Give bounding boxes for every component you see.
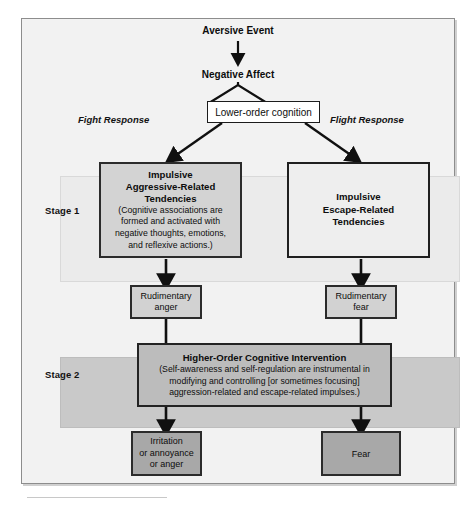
flight-response-label: Flight Response [330, 114, 404, 125]
hoci-body-line-2: modifying and controlling [or sometimes … [142, 376, 387, 388]
irritation-outcome-box: Irritation or annoyance or anger [131, 431, 202, 476]
lower-order-cognition-text: Lower-order cognition [208, 107, 319, 118]
stage-1-label: Stage 1 [45, 205, 80, 216]
footer-rule [27, 497, 167, 498]
lower-order-cognition-box: Lower-order cognition [207, 101, 320, 123]
agg-body-line-1: (Cognitive associations are [104, 205, 237, 217]
stage-2-label: Stage 2 [45, 369, 80, 380]
agg-body-line-3: negative thoughts, emotions, [104, 228, 237, 240]
hoci-title-line-1: Higher-Order Cognitive Intervention [142, 351, 387, 364]
irritation-line-1: Irritation [136, 436, 197, 448]
agg-title-line-1: Impulsive [104, 169, 237, 181]
rud-fear-line-1: Rudimentary [330, 291, 392, 303]
hoci-body-line-3: aggression-related and escape-related im… [142, 387, 387, 399]
rudimentary-fear-box: Rudimentary fear [325, 285, 397, 319]
aversive-event-title: Aversive Event [0, 25, 476, 36]
higher-order-cognitive-intervention-box: Higher-Order Cognitive Intervention (Sel… [137, 343, 392, 407]
agg-body-line-2: formed and activated with [104, 216, 237, 228]
impulsive-escape-tendencies-box: Impulsive Escape-Related Tendencies [287, 162, 430, 258]
impulsive-aggressive-tendencies-box: Impulsive Aggressive-Related Tendencies … [99, 162, 242, 258]
esc-title-line-2: Escape-Related [292, 204, 425, 217]
rud-anger-line-2: anger [135, 302, 197, 314]
esc-title-line-1: Impulsive [292, 191, 425, 204]
fear-line-1: Fear [323, 449, 399, 459]
agg-title-line-2: Aggressive-Related [104, 181, 237, 193]
rud-fear-line-2: fear [330, 302, 392, 314]
irritation-line-3: or anger [136, 459, 197, 471]
hoci-body-line-1: (Self-awareness and self-regulation are … [142, 364, 387, 376]
agg-title-line-3: Tendencies [104, 193, 237, 205]
fight-response-label: Fight Response [78, 114, 149, 125]
agg-body-line-4: and reflexive actions.) [104, 240, 237, 252]
esc-title-line-3: Tendencies [292, 216, 425, 229]
rud-anger-line-1: Rudimentary [135, 291, 197, 303]
rudimentary-anger-box: Rudimentary anger [130, 285, 202, 319]
irritation-line-2: or annoyance [136, 448, 197, 460]
figure-canvas: Stage 1 Stage 2 Aversive Event Negative … [0, 0, 476, 507]
fear-outcome-box: Fear [321, 431, 401, 476]
negative-affect-title: Negative Affect [0, 69, 476, 80]
